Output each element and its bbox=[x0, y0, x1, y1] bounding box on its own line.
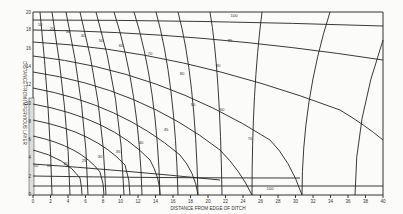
curve-label: 95 bbox=[228, 38, 233, 43]
x-tick-label: 2 bbox=[49, 199, 52, 204]
x-tick-label: 22 bbox=[223, 199, 229, 204]
curve-label: 80 bbox=[180, 71, 185, 76]
x-tick-label: 26 bbox=[258, 199, 264, 204]
x-tick-label: 0 bbox=[32, 199, 35, 204]
x-tick-label: 8 bbox=[102, 199, 105, 204]
curve-label: 10 bbox=[34, 163, 39, 168]
x-axis-title: DISTANCE FROM EDGE OF DITCH bbox=[171, 206, 246, 211]
x-tick-label: 38 bbox=[363, 199, 369, 204]
curve-label: 15 bbox=[47, 163, 52, 168]
x-tick-label: 20 bbox=[205, 199, 211, 204]
curve-label: 90 bbox=[216, 63, 221, 68]
ditch-zone bbox=[29, 98, 34, 195]
curve-label: 50 bbox=[99, 38, 104, 43]
curve-label: 45 bbox=[164, 127, 169, 132]
curve-label: 40 bbox=[81, 33, 86, 38]
x-tick-label: 14 bbox=[153, 199, 159, 204]
x-tick-label: 24 bbox=[240, 199, 246, 204]
curve-label: 60 bbox=[220, 107, 225, 112]
curve-label: 100 bbox=[231, 13, 239, 18]
y-tick-label: 20 bbox=[26, 10, 32, 15]
x-tick-label: 6 bbox=[84, 199, 87, 204]
y-axis-title: DISTANCE FROM IMPERVIOUS LAYER bbox=[22, 61, 27, 145]
curve-label: 20 bbox=[64, 161, 69, 166]
x-tick-label: 32 bbox=[310, 199, 316, 204]
x-tick-label: 10 bbox=[118, 199, 124, 204]
curve-label: 60 bbox=[119, 43, 124, 48]
curve-label: 25 bbox=[82, 158, 87, 163]
streamlines bbox=[33, 20, 383, 195]
x-tick-label: 30 bbox=[293, 199, 299, 204]
curve-label: 70 bbox=[248, 136, 253, 141]
x-tick-label: 4 bbox=[67, 199, 70, 204]
x-tick-label: 40 bbox=[380, 199, 386, 204]
curve-label: 10 bbox=[38, 22, 43, 27]
curve-label: 20 bbox=[50, 26, 55, 31]
y-tick-label: 16 bbox=[26, 46, 32, 51]
curve-label: 100 bbox=[267, 186, 275, 191]
x-tick-label: 12 bbox=[135, 199, 141, 204]
x-axis: 0 2 4 6 8 10 12 14 16 18 20 22 24 26 28 … bbox=[32, 195, 386, 211]
curve-label: 50 bbox=[191, 102, 196, 107]
curve-label: 70 bbox=[148, 51, 153, 56]
x-tick-label: 34 bbox=[328, 199, 334, 204]
curve-label: 30 bbox=[98, 154, 103, 159]
curve-label: 35 bbox=[116, 149, 121, 154]
x-tick-label: 16 bbox=[170, 199, 176, 204]
x-tick-label: 36 bbox=[345, 199, 351, 204]
y-tick-label: 18 bbox=[26, 27, 32, 32]
curve-label: 30 bbox=[66, 29, 71, 34]
x-tick-label: 28 bbox=[275, 199, 281, 204]
x-tick-label: 18 bbox=[188, 199, 194, 204]
flow-net-chart: 0 2 4 6 8 10 12 14 16 18 20 22 24 26 28 … bbox=[0, 0, 403, 214]
curve-label: 40 bbox=[139, 140, 144, 145]
